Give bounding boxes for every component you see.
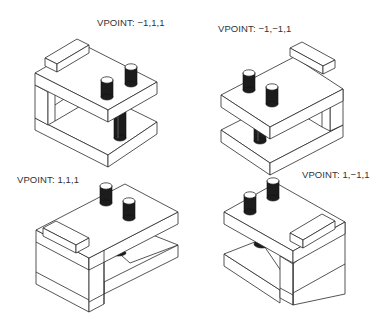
- vpoint-label-1: VPOINT: −1,1,1: [97, 17, 165, 28]
- view2-pin-2-base: [266, 101, 278, 107]
- view3-pin-1-top: [100, 183, 112, 189]
- views-svg: [0, 0, 390, 328]
- view1-pin-2-top: [125, 64, 137, 70]
- view4-pin-1-base: [244, 209, 256, 215]
- view2-pin-1-base: [243, 87, 255, 93]
- view3-pin-2-base: [123, 215, 135, 221]
- view-4-model: [224, 178, 345, 305]
- view4-pin-2-base: [267, 195, 279, 201]
- vpoint-label-4: VPOINT: 1,−1,1: [302, 169, 370, 180]
- view2-pin-1-top: [243, 70, 255, 76]
- view-2-model: [221, 42, 343, 175]
- view4-pin-2-top: [267, 178, 279, 184]
- view1-screw-end: [114, 135, 126, 141]
- view3-pin-1-base: [100, 200, 112, 206]
- view1-pin-2-base: [125, 81, 137, 87]
- view4-pin-1-top: [244, 192, 256, 198]
- drawing-canvas: VPOINT: −1,1,1 VPOINT: −1,−1,1 VPOINT: 1…: [0, 0, 390, 328]
- view3-pin-2-top: [123, 198, 135, 204]
- view1-pin-1-top: [101, 77, 113, 83]
- view-3-model: [36, 183, 178, 312]
- view2-screw-end: [254, 138, 266, 144]
- view1-pin-1-base: [101, 94, 113, 100]
- view4-column-front: [280, 256, 293, 305]
- view-1-model: [35, 39, 157, 167]
- vpoint-label-3: VPOINT: 1,1,1: [17, 174, 79, 185]
- view2-pin-2-top: [266, 84, 278, 90]
- vpoint-label-2: VPOINT: −1,−1,1: [218, 23, 291, 34]
